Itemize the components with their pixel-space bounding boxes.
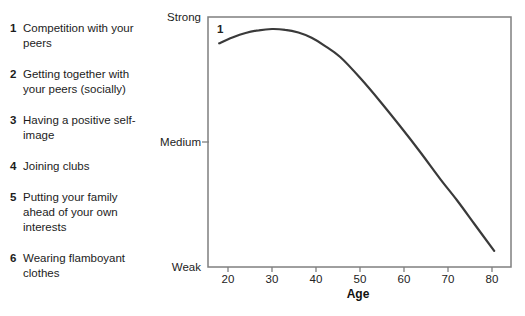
- y-tick-label-strong: Strong: [167, 11, 201, 23]
- x-tick-label: 50: [354, 273, 367, 285]
- x-tick-label: 80: [486, 273, 499, 285]
- chart-canvas: 20304050607080: [0, 0, 525, 316]
- x-axis-title: Age: [347, 287, 370, 301]
- figure: 1 Competition with your peers 2 Getting …: [0, 0, 525, 316]
- x-tick-label: 60: [398, 273, 411, 285]
- x-tick-label: 30: [266, 273, 279, 285]
- plot-border: [208, 17, 511, 267]
- x-tick-label: 40: [310, 273, 323, 285]
- y-tick-label-medium: Medium: [160, 136, 201, 148]
- x-tick-label: 20: [222, 273, 235, 285]
- y-tick-label-weak: Weak: [172, 261, 201, 273]
- x-tick-label: 70: [442, 273, 455, 285]
- curve-label-1: 1: [217, 23, 223, 35]
- age-strength-chart: 20304050607080 Strong Medium Weak 1 Age: [0, 0, 525, 316]
- curve-series-1: [219, 29, 494, 251]
